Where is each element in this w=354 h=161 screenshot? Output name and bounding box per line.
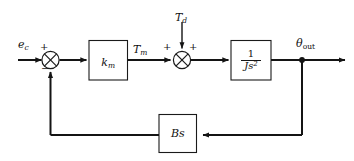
- plant-denominator-exponent: 2: [253, 60, 257, 68]
- gain-block-subscript: m: [108, 61, 115, 70]
- disturbance-input-label: Td: [175, 8, 187, 25]
- output-signal-subscript: out: [303, 42, 315, 51]
- error-junction-plus-sign: +: [40, 42, 48, 52]
- plant-denominator: Js2: [241, 61, 261, 72]
- gain-block-label: km: [89, 41, 128, 81]
- motor-torque-label: Tm: [133, 40, 147, 57]
- motor-torque-subscript: m: [140, 48, 147, 57]
- torque-junction-top-plus-sign: +: [189, 42, 197, 52]
- feedback-block-symbol: Bs: [171, 127, 185, 140]
- plant-transfer-function: 1 Js2: [241, 49, 261, 72]
- error-junction-minus-sign: −: [41, 64, 49, 74]
- plant-denominator-base: Js: [244, 60, 253, 71]
- disturbance-subscript: d: [182, 16, 187, 25]
- block-diagram-figure: ec + − km Tm Td + + 1 Js2 θout Bs: [0, 0, 354, 161]
- torque-junction-left-plus-sign: +: [163, 42, 171, 52]
- input-signal-subscript: c: [25, 43, 29, 52]
- plant-numerator: 1: [241, 49, 261, 60]
- output-signal-symbol: θ: [296, 37, 303, 50]
- gain-block-symbol: k: [101, 56, 108, 69]
- plant-block-label: 1 Js2: [231, 41, 271, 81]
- input-signal-label: ec: [18, 35, 29, 52]
- feedback-block-label: Bs: [159, 115, 197, 153]
- output-signal-label: θout: [296, 34, 315, 51]
